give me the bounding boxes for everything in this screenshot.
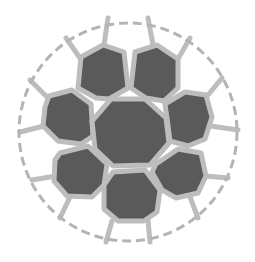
inner-cell-top-right [131,45,178,101]
cell-cross-section-diagram [0,0,255,262]
inner-cell-right [165,92,212,146]
center-cell [92,99,169,166]
inner-cell-top-left [78,45,128,99]
outer-wall-7 [148,220,150,242]
inner-cell-left [43,90,93,144]
inner-cell-bottom [104,170,160,221]
